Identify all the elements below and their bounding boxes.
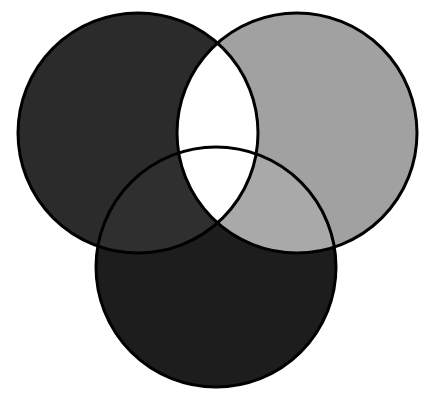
venn-diagram: [0, 0, 432, 407]
